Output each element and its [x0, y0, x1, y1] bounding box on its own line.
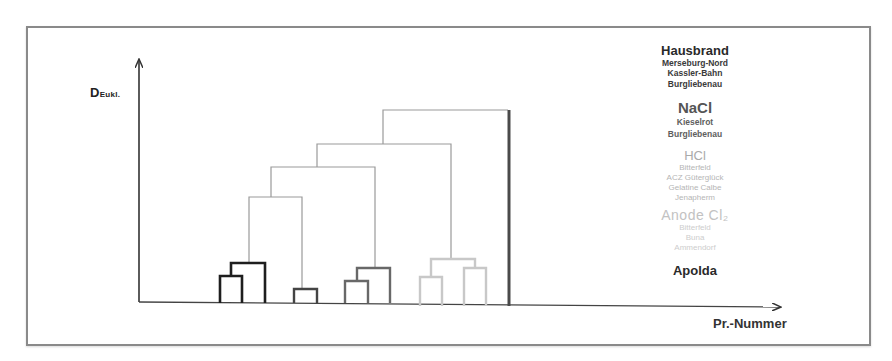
cluster-nacl [294, 289, 317, 303]
cluster-hcl [345, 268, 390, 303]
legend-item: Bitterfeld [620, 223, 770, 233]
cluster-hausbrand [220, 263, 265, 303]
legend-item: Merseburg-Nord [620, 58, 770, 69]
dendrogram-connectors [249, 110, 508, 289]
legend-group-hausbrand: Hausbrand Merseburg-Nord Kassler-Bahn Bu… [620, 44, 770, 89]
legend-item: Ammendorf [620, 243, 770, 253]
legend-item: Kassler-Bahn [620, 68, 770, 79]
legend-item: Bitterfeld [620, 163, 770, 173]
legend-item: Jenapherm [620, 193, 770, 203]
legend-title: Anode Cl₂ [620, 208, 770, 223]
legend-item: Kieselrot [620, 116, 770, 128]
legend-title: Apolda [620, 264, 770, 278]
legend-item: Burgliebenau [620, 128, 770, 140]
legend-item: Buna [620, 233, 770, 243]
legend-item: Gelatine Calbe [620, 183, 770, 193]
legend-item: ACZ Güterglück [620, 173, 770, 183]
legend-title: Hausbrand [620, 44, 770, 58]
x-axis-label: Pr.-Nummer [713, 316, 787, 331]
cluster-anode-cl2 [420, 259, 486, 306]
legend-group-hcl: HCl Bitterfeld ACZ Güterglück Gelatine C… [620, 149, 770, 203]
legend-title: HCl [620, 149, 770, 163]
x-axis [139, 302, 780, 307]
legend-group-nacl: NaCl Kieselrot Burgliebenau [620, 100, 770, 140]
legend-title: NaCl [620, 100, 770, 116]
y-axis-label: DEukl. [90, 85, 120, 100]
legend-group-anode-cl2: Anode Cl₂ Bitterfeld Buna Ammendorf [620, 208, 770, 253]
legend-item: Burgliebenau [620, 79, 770, 90]
legend-group-apolda: Apolda [620, 264, 770, 278]
